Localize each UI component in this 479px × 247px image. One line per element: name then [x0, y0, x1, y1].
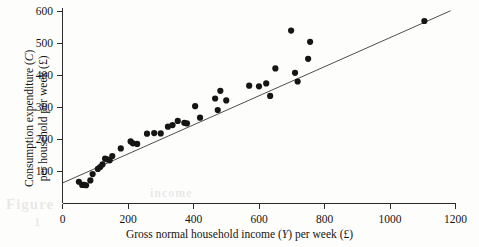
data-point [212, 95, 218, 101]
data-point [272, 65, 278, 71]
x-axis-title-suffix: ) per week (£) [288, 228, 353, 240]
y-axis-title-prefix: Consumption expenditure ( [23, 61, 35, 187]
data-point [184, 120, 190, 126]
x-tick-label: 400 [185, 213, 203, 225]
data-point [109, 153, 115, 159]
data-point [90, 171, 96, 177]
data-point [263, 80, 269, 86]
data-point [83, 182, 89, 188]
x-axis-title: Gross normal household income (Y) per we… [0, 228, 479, 240]
x-tick-label: 600 [250, 213, 268, 225]
data-point [288, 28, 294, 34]
regression-line-path [63, 11, 451, 183]
x-tick-label: 200 [119, 213, 137, 225]
data-point [267, 93, 273, 99]
scatter-plot-figure: Figure 1 income 100200300400500600 02004… [0, 0, 479, 247]
data-point [169, 122, 175, 128]
x-tick-label: 1200 [444, 213, 467, 225]
data-point [134, 141, 140, 147]
data-point [175, 118, 181, 124]
data-point [144, 131, 150, 137]
x-tick-label: 0 [60, 213, 66, 225]
data-point [223, 97, 229, 103]
y-axis-title-line2: per household per week (£) [36, 12, 50, 224]
data-point [295, 78, 301, 84]
regression-line [63, 11, 451, 183]
data-point [246, 83, 252, 89]
data-point [307, 39, 313, 45]
data-point [99, 161, 105, 167]
x-axis-title-prefix: Gross normal household income ( [126, 228, 282, 240]
plot-canvas: 100200300400500600 020040060080010001200 [0, 0, 479, 247]
y-axis-title-line1: Consumption expenditure (C) [22, 12, 36, 224]
x-tick-label: 800 [316, 213, 334, 225]
data-point [192, 103, 198, 109]
data-point [118, 145, 124, 151]
x-axis-ticks: 020040060080010001200 [60, 204, 468, 226]
data-point [158, 130, 164, 136]
data-point [421, 18, 427, 24]
x-axis: 020040060080010001200 [60, 204, 468, 226]
data-point [87, 177, 93, 183]
data-point [197, 115, 203, 121]
data-point [217, 88, 223, 94]
y-axis-title-symbol: C [23, 54, 35, 62]
y-axis-title-suffix: ) [23, 50, 35, 54]
data-point [215, 107, 221, 113]
data-point [292, 70, 298, 76]
data-point [256, 83, 262, 89]
y-axis-title: Consumption expenditure (C) per househol… [22, 12, 51, 224]
data-points [76, 18, 428, 188]
data-point [151, 130, 157, 136]
data-point [305, 56, 311, 62]
x-tick-label: 1000 [379, 213, 402, 225]
